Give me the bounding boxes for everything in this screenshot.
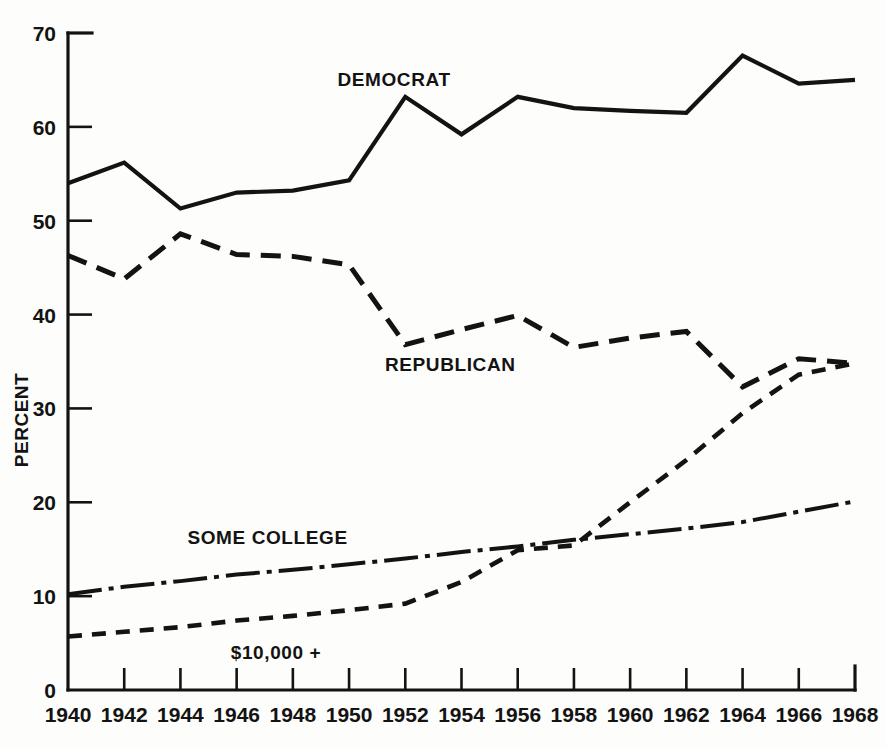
chart-container: 010203040506070 194019421944194619481950…: [0, 0, 886, 747]
x-tick-label: 1966: [775, 703, 822, 726]
x-tick-label: 1950: [326, 703, 373, 726]
y-tick-label: 0: [44, 679, 56, 702]
y-tick-label: 10: [33, 585, 56, 608]
y-axis-ticks: 010203040506070: [33, 22, 92, 702]
series-line-10-000: [68, 363, 855, 636]
y-tick-label: 30: [33, 397, 56, 420]
y-tick-label: 60: [33, 116, 56, 139]
y-tick-label: 20: [33, 491, 56, 514]
x-tick-label: 1940: [45, 703, 92, 726]
x-tick-label: 1942: [101, 703, 148, 726]
x-tick-label: 1958: [551, 703, 598, 726]
x-tick-label: 1944: [157, 703, 204, 726]
y-axis-title: PERCENT: [11, 373, 32, 467]
series-line-democrat: [68, 56, 855, 209]
series-label-democrat: DEMOCRAT: [337, 69, 450, 90]
series-label-republican: REPUBLICAN: [385, 354, 516, 375]
x-tick-label: 1960: [607, 703, 654, 726]
x-tick-label: 1954: [438, 703, 485, 726]
series-label-10-000: $10,000 +: [231, 642, 321, 663]
y-tick-label: 40: [33, 304, 56, 327]
y-tick-label: 50: [33, 210, 56, 233]
x-tick-label: 1948: [269, 703, 316, 726]
series-line-some-college: [68, 501, 855, 594]
x-tick-label: 1956: [494, 703, 541, 726]
x-tick-label: 1946: [213, 703, 260, 726]
line-chart: 010203040506070 194019421944194619481950…: [0, 0, 886, 747]
x-tick-label: 1962: [663, 703, 710, 726]
x-tick-label: 1952: [382, 703, 429, 726]
data-series: [68, 56, 855, 637]
x-tick-label: 1968: [832, 703, 879, 726]
x-axis-ticks: 1940194219441946194819501952195419561958…: [45, 668, 879, 726]
y-tick-label: 70: [33, 22, 56, 45]
x-tick-label: 1964: [719, 703, 766, 726]
series-label-some-college: SOME COLLEGE: [187, 527, 347, 548]
